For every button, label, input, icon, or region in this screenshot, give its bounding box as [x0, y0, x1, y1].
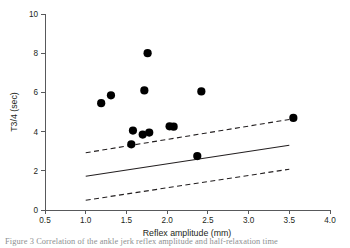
y-tick-label: 0 [33, 206, 38, 215]
data-point [197, 87, 205, 95]
y-axis-ticks: 0246810 [29, 10, 45, 215]
data-point [129, 127, 137, 135]
y-tick-label: 2 [33, 167, 38, 176]
x-axis-ticks: 0.51.01.52.02.53.03.54.0 [39, 210, 336, 225]
data-point [170, 123, 178, 131]
upper-confidence-band [86, 119, 290, 152]
x-tick-label: 1.0 [80, 216, 92, 225]
data-points [97, 49, 297, 160]
x-axis-title: Reflex amplitude (mm) [143, 228, 232, 238]
figure-container: 0246810 0.51.01.52.02.53.03.54.0 T3/4 (s… [0, 0, 350, 248]
scatter-plot: 0246810 0.51.01.52.02.53.03.54.0 T3/4 (s… [0, 0, 350, 248]
y-tick-label: 8 [33, 49, 38, 58]
lower-confidence-band [86, 169, 290, 200]
data-point [127, 140, 135, 148]
x-tick-label: 3.0 [243, 216, 255, 225]
data-point [107, 91, 115, 99]
x-tick-label: 4.0 [324, 216, 336, 225]
figure-caption: Figure 3 Correlation of the ankle jerk r… [5, 238, 278, 246]
y-tick-label: 6 [33, 88, 38, 97]
x-tick-label: 1.5 [121, 216, 133, 225]
data-point [97, 99, 105, 107]
data-point [144, 49, 152, 57]
data-point [145, 128, 153, 136]
figure-caption-strip: Figure 3 Correlation of the ankle jerk r… [0, 238, 350, 248]
x-tick-label: 0.5 [39, 216, 51, 225]
y-tick-label: 4 [33, 128, 38, 137]
data-point [289, 114, 297, 122]
y-tick-label: 10 [29, 10, 39, 19]
axes [45, 14, 330, 210]
fit-lines [86, 119, 290, 200]
data-point [193, 152, 201, 160]
regression-line [86, 145, 290, 176]
x-tick-label: 2.0 [161, 216, 173, 225]
x-tick-label: 3.5 [284, 216, 296, 225]
y-axis-title: T3/4 (sec) [9, 92, 19, 132]
data-point [140, 86, 148, 94]
x-tick-label: 2.5 [202, 216, 214, 225]
